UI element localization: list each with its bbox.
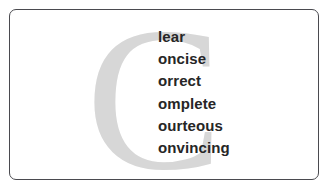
list-item-clear: lear	[158, 26, 318, 48]
slide-canvas: C lear oncise orrect omplete ourteous on…	[0, 0, 329, 191]
list-item-courteous: ourteous	[158, 115, 318, 137]
list-item-convincing: onvincing	[158, 137, 318, 159]
list-item-concise: oncise	[158, 48, 318, 70]
c-words-list: lear oncise orrect omplete ourteous onvi…	[158, 26, 318, 159]
content-card: C lear oncise orrect omplete ourteous on…	[9, 9, 319, 180]
list-item-correct: orrect	[158, 70, 318, 92]
list-item-complete: omplete	[158, 93, 318, 115]
